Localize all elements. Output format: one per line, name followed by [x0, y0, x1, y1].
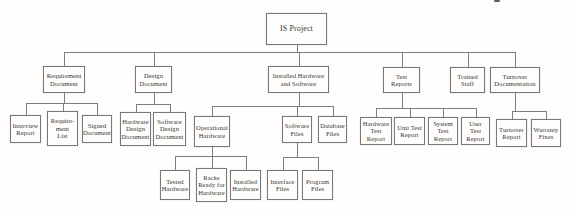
connector-drop-unit-test-report — [410, 108, 411, 117]
wbs-box-installed-hardware-label: Installed Hardware — [231, 177, 259, 194]
wbs-box-hardware-test-report-label: Hardware Test Report — [361, 119, 391, 143]
connector-drop-hardware-design-document — [136, 104, 137, 112]
wbs-box-racks-ready-for-hardware: Racks Ready for Hardware — [196, 168, 227, 202]
connector-stem-test-reports — [402, 93, 403, 108]
wbs-box-installed-hardware: Installed Hardware — [230, 170, 261, 200]
connector-bus-design-document — [136, 104, 171, 105]
wbs-box-hardware-design-document: Hardware Design Document — [120, 112, 151, 146]
wbs-box-turnover-documentation: Turnover Documentation — [490, 67, 540, 93]
connector-stem-turnover-documentation — [515, 93, 516, 111]
wbs-box-warranty-fixes: Warranty Fixes — [531, 119, 561, 147]
wbs-box-software-design-document-label: Software Design Document — [155, 117, 185, 141]
connector-drop-racks-ready-for-hardware — [212, 156, 213, 168]
connector-drop-system-test-report — [443, 108, 444, 117]
wbs-box-system-test-report-label: System Test Report — [429, 119, 457, 143]
connector-bus-turnover-documentation — [512, 111, 547, 112]
connector-drop-installed-hardware-software — [299, 52, 300, 66]
connector-stem-operational-hardware — [212, 147, 213, 156]
wbs-box-racks-ready-for-hardware-label: Racks Ready for Hardware — [197, 173, 226, 197]
wbs-box-warranty-fixes-label: Warranty Fixes — [533, 125, 560, 142]
wbs-box-software-design-document: Software Design Document — [153, 112, 186, 146]
wbs-box-installed-hardware-and-software-label: Installed Hardware and Software — [272, 71, 325, 88]
connector-drop-program-files — [318, 157, 319, 170]
wbs-box-test-reports-label: Test Reports — [390, 72, 413, 89]
wbs-box-interview-report: Interview Report — [10, 115, 41, 143]
wbs-box-user-test-report: User Test Report — [461, 117, 490, 145]
wbs-box-installed-hardware-and-software: Installed Hardware and Software — [268, 66, 329, 93]
wbs-box-software-files-label: Software Files — [284, 121, 310, 138]
connector-bus-test-reports — [376, 108, 477, 109]
connector-drop-software-files — [297, 106, 298, 116]
connector-drop-requirement-document — [64, 52, 65, 66]
wbs-box-system-test-report: System Test Report — [428, 117, 458, 145]
connector-bus-installed-hardware-software — [212, 106, 334, 107]
wbs-diagram: IS ProjectRequirement DocumentDesign Doc… — [0, 0, 576, 210]
connector-drop-database-files — [333, 106, 334, 116]
connector-bus-requirement-document — [26, 103, 98, 104]
connector-drop-interview-report — [26, 103, 27, 115]
connector-drop-warranty-fixes — [546, 111, 547, 119]
connector-drop-requirement-list — [63, 103, 64, 111]
connector-drop-design-document — [154, 52, 155, 66]
wbs-box-database-files: Database Files — [318, 116, 347, 143]
wbs-box-trained-staff-label: Trained Staff — [456, 72, 479, 89]
connector-drop-test-reports — [402, 52, 403, 67]
connector-drop-software-design-document — [170, 104, 171, 112]
connector-drop-trained-staff — [468, 52, 469, 67]
wbs-box-requirement-document-label: Requirement Document — [46, 71, 83, 88]
connector-stem-installed-hardware-software — [299, 93, 300, 106]
wbs-box-is-project-label: IS Project — [279, 23, 314, 34]
wbs-box-interface-files-label: Interface Files — [270, 177, 296, 194]
wbs-box-hardware-design-document-label: Hardware Design Document — [121, 117, 151, 141]
connector-stem-design-document — [154, 93, 155, 104]
wbs-box-interview-report-label: Interview Report — [12, 121, 40, 138]
wbs-box-signed-document-label: Signed Document — [82, 121, 112, 138]
wbs-box-unit-test-report: Unit Test Report — [394, 117, 425, 145]
connector-bus-is-project — [64, 52, 516, 53]
wbs-box-interface-files: Interface Files — [267, 170, 298, 200]
wbs-box-turnover-documentation-label: Turnover Documentation — [493, 72, 536, 89]
wbs-box-software-files: Software Files — [282, 116, 312, 143]
connector-drop-installed-hardware — [246, 156, 247, 170]
wbs-box-design-document: Design Document — [135, 66, 172, 93]
wbs-box-signed-document: Signed Document — [82, 115, 112, 143]
wbs-box-user-test-report-label: User Test Report — [462, 119, 489, 143]
wbs-box-operational-hardware-label: Operational Hardware — [195, 123, 229, 140]
connector-stem-is-project — [297, 45, 298, 52]
wbs-box-requirement-list: Require- ment List — [47, 111, 78, 146]
connector-drop-user-test-report — [476, 108, 477, 117]
wbs-box-turnover-report-label: Turnover Report — [498, 125, 525, 142]
wbs-box-design-document-label: Design Document — [139, 71, 169, 88]
wbs-box-trained-staff: Trained Staff — [450, 67, 485, 93]
connector-bus-operational-hardware — [175, 156, 247, 157]
connector-stem-requirement-document — [64, 93, 65, 103]
connector-drop-operational-hardware — [212, 106, 213, 116]
wbs-box-operational-hardware: Operational Hardware — [194, 116, 230, 147]
connector-drop-signed-document — [97, 103, 98, 115]
connector-bus-software-files — [283, 157, 319, 158]
wbs-box-hardware-test-report: Hardware Test Report — [360, 117, 392, 145]
scan-artifact-mark — [494, 0, 500, 2]
connector-drop-turnover-documentation — [515, 52, 516, 67]
connector-drop-hardware-test-report — [376, 108, 377, 117]
wbs-box-unit-test-report-label: Unit Test Report — [396, 123, 423, 140]
connector-stem-software-files — [297, 143, 298, 157]
connector-drop-turnover-report — [512, 111, 513, 119]
wbs-box-program-files: Program Files — [302, 170, 333, 200]
wbs-box-tested-hardware: Tested Hardware — [160, 170, 190, 200]
wbs-box-is-project: IS Project — [266, 13, 327, 45]
wbs-box-database-files-label: Database Files — [319, 121, 346, 138]
wbs-box-requirement-list-label: Require- ment List — [50, 116, 76, 140]
wbs-box-tested-hardware-label: Tested Hardware — [161, 177, 189, 194]
wbs-box-requirement-document: Requirement Document — [43, 66, 85, 93]
connector-drop-interface-files — [283, 157, 284, 170]
wbs-box-program-files-label: Program Files — [305, 177, 330, 194]
wbs-box-test-reports: Test Reports — [383, 67, 420, 93]
connector-drop-tested-hardware — [175, 156, 176, 170]
wbs-box-turnover-report: Turnover Report — [496, 119, 527, 147]
